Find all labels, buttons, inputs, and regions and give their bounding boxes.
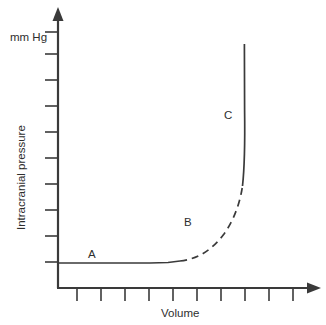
y-axis-unit-label: mm Hg [10,31,47,43]
annotation-label-a: A [88,248,96,260]
annotation-label-b: B [184,216,192,228]
x-axis-ticks [77,289,293,301]
y-axis-arrowhead [53,7,64,21]
x-axis-title: Volume [161,307,199,319]
y-axis-title: Intracranial pressure [15,125,27,230]
annotation-label-c: C [224,109,232,121]
chart-figure: mm Hg Intracranial pressure Volume A B C [0,0,326,325]
curve-segment-a [58,261,180,263]
x-axis-arrowhead [307,283,321,294]
y-axis-ticks [45,32,57,262]
pressure-volume-chart: mm Hg Intracranial pressure Volume A B C [0,0,326,325]
curve-segment-c [243,44,245,186]
